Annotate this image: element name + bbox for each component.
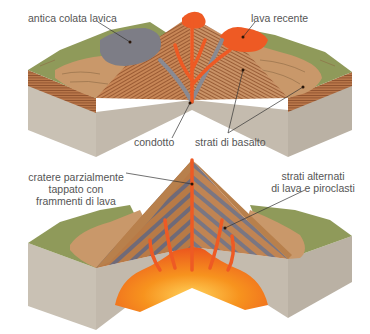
label-alternating-layers: strati alternati di lava e piroclasti: [268, 170, 358, 194]
label-old-lava-flow: antica colata lavica: [28, 12, 117, 24]
label-conduit: condotto: [134, 136, 174, 148]
shield-volcano-block: [28, 12, 352, 157]
volcano-diagrams: [0, 0, 370, 334]
label-recent-lava: lava recente: [251, 12, 308, 24]
label-basalt-layers: strati di basalto: [195, 136, 266, 148]
label-crater: cratere parzialmente tappato con frammen…: [26, 171, 126, 207]
